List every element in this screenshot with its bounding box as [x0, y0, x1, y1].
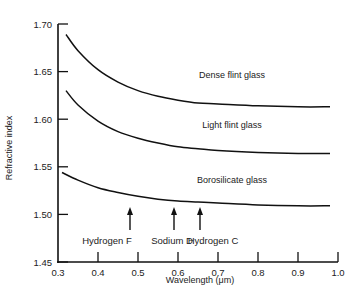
y-axis-title: Refractive index — [4, 115, 14, 180]
curve-label: Dense flint glass — [199, 70, 266, 80]
y-tick-label: 1.50 — [34, 209, 53, 220]
curve-labels: Dense flint glassLight flint glassBorosi… — [197, 70, 268, 185]
x-tick-label: 0.4 — [91, 267, 104, 278]
x-axis-title: Wavelength (μm) — [166, 275, 234, 285]
arrowhead-icon — [127, 207, 133, 215]
y-tick-label: 1.45 — [34, 257, 53, 268]
curve-label: Borosilicate glass — [197, 175, 268, 185]
y-tick-label: 1.60 — [34, 114, 53, 125]
marker-label: Hydrogen F — [82, 235, 132, 246]
y-tick-label: 1.55 — [34, 161, 53, 172]
arrowhead-icon — [197, 207, 203, 215]
x-tick-label: 0.5 — [131, 267, 144, 278]
spectral-line-markers: Hydrogen FSodium DHydrogen C — [82, 207, 238, 246]
x-tick-label: 0.9 — [291, 267, 304, 278]
x-tick-label: 1.0 — [331, 267, 344, 278]
refractive-index-chart: 1.451.501.551.601.651.700.30.40.50.60.70… — [0, 0, 360, 297]
arrowhead-icon — [171, 207, 177, 215]
y-tick-label: 1.70 — [34, 19, 53, 30]
curve-label: Light flint glass — [202, 120, 262, 130]
x-tick-label: 0.8 — [251, 267, 264, 278]
x-tick-label: 0.3 — [51, 267, 64, 278]
marker-label: Hydrogen C — [188, 235, 239, 246]
y-tick-label: 1.65 — [34, 66, 53, 77]
curve-light-flint-glass — [66, 91, 330, 154]
